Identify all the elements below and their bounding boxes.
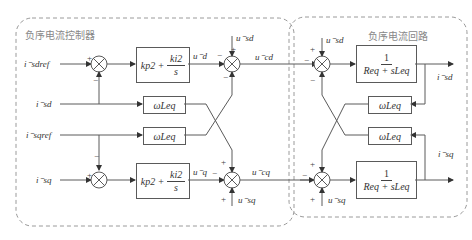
denominator: Req + sLeq [363,181,409,192]
wl-plant-bottom-block: ωLeq [368,127,412,145]
sign-plus: + [310,45,315,54]
ucq-label: u⁻cq [252,168,270,177]
isq-output-label: i⁻sq [438,150,454,159]
sign-minus: − [93,76,98,85]
usq-plant-label: u⁻sq [328,196,346,205]
wl-ctrl-bottom-block: ωLeq [143,127,186,145]
kp-label: kp2 [141,176,155,187]
input-isq-label: i⁻sq [36,176,52,185]
input-isqref-label: i⁻sqref [26,131,51,140]
sign-plus: + [310,195,315,204]
plus-label: + [158,60,164,71]
usd-ctrl-label: u⁻sd [236,34,254,43]
input-isd-label: i⁻sd [36,100,52,109]
ucd-label: u⁻cd [255,53,273,62]
s-label: s [174,66,178,77]
controller-region-title: 负序电流控制器 [25,27,95,42]
ki-label: ki2 [167,170,185,182]
sign-minus: − [223,73,228,82]
sign-minus: − [217,51,222,60]
sign-plus: + [221,158,226,167]
plus-label: + [158,176,164,187]
s-label: s [174,182,178,193]
plant-d-transfer-block: 1Req + sLeq [356,45,417,83]
uq-label: u⁻q [193,168,207,177]
isd-output-label: i⁻sd [437,73,453,82]
ud-label: u⁻d [193,52,207,61]
sign-minus: − [310,76,315,85]
numerator: 1 [381,169,392,181]
sign-plus: + [221,195,226,204]
sign-plus: + [87,54,92,63]
pi-controller-q-block: kp2 + ki2s [136,163,190,199]
input-isdref-label: i⁻sdref [24,60,49,69]
sign-minus: − [94,152,99,161]
sign-plus: + [87,171,92,180]
wl-ctrl-top-block: ωLeq [143,96,186,114]
numerator: 1 [381,53,392,65]
wl-plant-top-block: ωLeq [368,96,412,114]
denominator: Req + sLeq [363,65,409,76]
usq-ctrl-label: u⁻sq [238,196,256,205]
sign-minus: − [304,56,309,65]
sign-plus: + [231,45,236,54]
sign-plus: + [310,160,315,169]
plant-region-title: 负序电流回路 [368,28,428,43]
usd-plant-label: u⁻sd [326,36,344,45]
ki-label: ki2 [167,54,185,66]
plant-q-transfer-block: 1Req + sLeq [356,161,417,199]
sign-minus: − [212,169,217,178]
kp-label: kp2 [141,60,155,71]
sign-minus: − [302,171,307,180]
pi-controller-d-block: kp2 + ki2s [136,47,190,83]
